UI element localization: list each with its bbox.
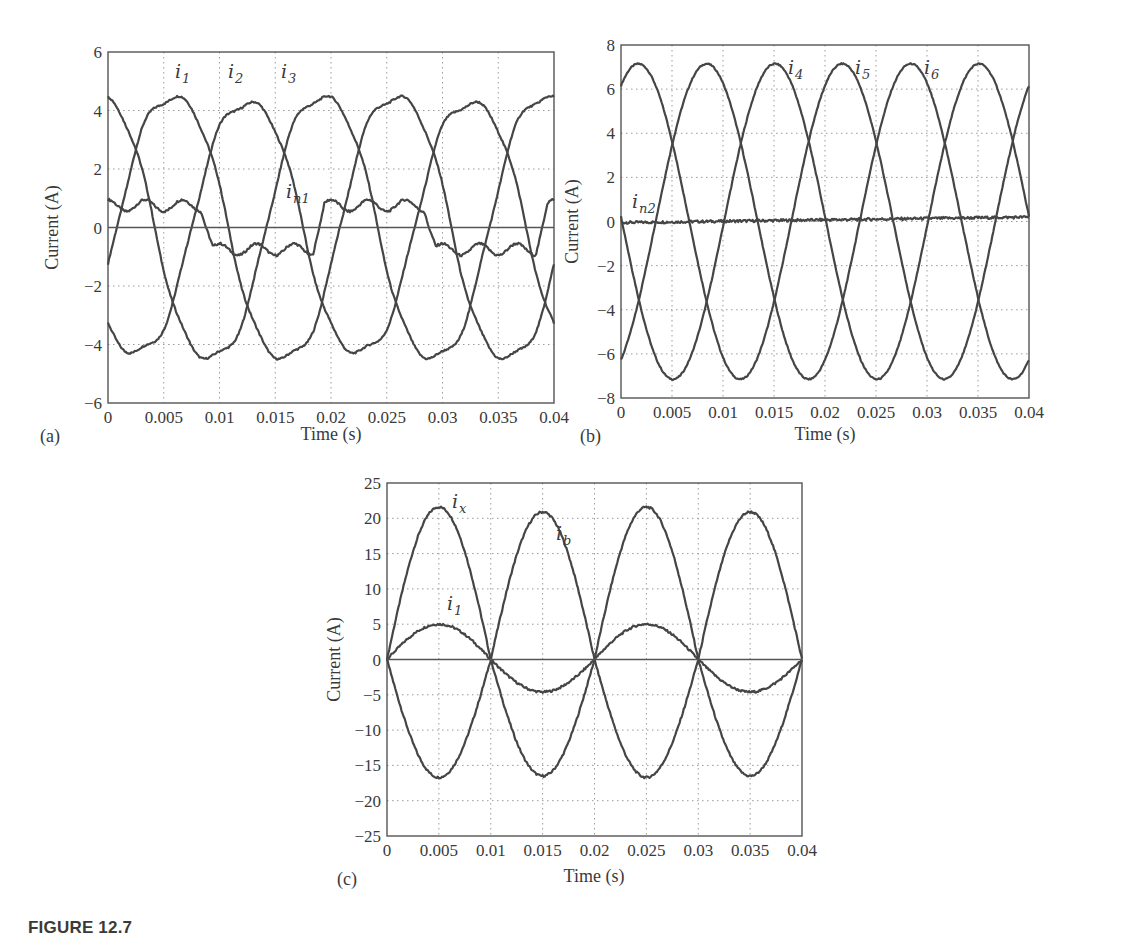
- x-tick-label: 0.025: [627, 841, 665, 860]
- figure-canvas: 00.0050.010.0150.020.0250.030.0350.04642…: [0, 0, 1142, 942]
- chart-panel-2: 00.0050.010.0150.020.0250.030.0350.04252…: [324, 474, 817, 890]
- y-axis-label: Current (A): [562, 179, 583, 263]
- y-tick-label: −20: [354, 792, 381, 811]
- chart-panel-0: 00.0050.010.0150.020.0250.030.0350.04642…: [40, 43, 569, 447]
- series-ix-label: ix: [452, 490, 467, 516]
- y-tick-label: 8: [607, 36, 616, 55]
- x-axis-label: Time (s): [795, 424, 856, 445]
- y-tick-label: −4: [84, 336, 103, 355]
- x-tick-label: 0.04: [539, 408, 569, 427]
- y-axis-label: Current (A): [324, 617, 345, 701]
- y-tick-label: 0: [607, 213, 616, 232]
- x-tick-label: 0.015: [755, 403, 793, 422]
- y-tick-label: 0: [94, 219, 103, 238]
- x-axis-label: Time (s): [301, 424, 362, 445]
- x-tick-label: 0.005: [145, 408, 183, 427]
- y-tick-label: 2: [94, 160, 103, 179]
- y-tick-label: 2: [607, 168, 616, 187]
- series-i2-label: i2: [228, 60, 243, 86]
- panel-label: (c): [337, 869, 357, 890]
- series-ib-label: ib: [556, 522, 571, 548]
- x-tick-label: 0.04: [1014, 403, 1044, 422]
- x-tick-label: 0.01: [476, 841, 506, 860]
- x-tick-label: 0: [383, 841, 392, 860]
- x-tick-label: 0.025: [368, 408, 406, 427]
- panel-label: (b): [580, 426, 601, 447]
- y-tick-label: −4: [597, 301, 616, 320]
- x-tick-label: 0: [617, 403, 626, 422]
- x-tick-label: 0.005: [420, 841, 458, 860]
- x-tick-label: 0.02: [580, 841, 610, 860]
- y-tick-label: 20: [364, 509, 381, 528]
- figure-caption: FIGURE 12.7: [28, 918, 132, 938]
- x-tick-label: 0.025: [857, 403, 895, 422]
- y-tick-label: 6: [607, 80, 616, 99]
- series-i1-label: i1: [175, 60, 190, 86]
- x-tick-label: 0.01: [205, 408, 235, 427]
- y-tick-label: 4: [607, 124, 616, 143]
- series-i6-label: i6: [924, 56, 939, 82]
- y-axis-label: Current (A): [42, 185, 63, 269]
- x-tick-label: 0.03: [912, 403, 942, 422]
- y-tick-label: 10: [364, 580, 381, 599]
- x-tick-label: 0.02: [810, 403, 840, 422]
- y-tick-label: −6: [597, 345, 615, 364]
- x-tick-label: 0.005: [653, 403, 691, 422]
- series-in1-label: in1: [286, 180, 310, 206]
- x-tick-label: 0.035: [479, 408, 517, 427]
- x-tick-label: 0: [104, 408, 113, 427]
- x-tick-label: 0.035: [959, 403, 997, 422]
- x-tick-label: 0.035: [731, 841, 769, 860]
- series-ix-line: [387, 506, 802, 777]
- y-tick-label: 5: [373, 615, 382, 634]
- x-axis-label: Time (s): [564, 866, 625, 887]
- y-tick-label: 4: [94, 102, 103, 121]
- y-tick-label: −10: [354, 721, 381, 740]
- x-tick-label: 0.015: [524, 841, 562, 860]
- panel-label: (a): [40, 426, 60, 447]
- y-tick-label: 25: [364, 474, 381, 493]
- series-i3-label: i3: [281, 60, 296, 86]
- y-tick-label: −2: [84, 277, 102, 296]
- y-tick-label: 6: [94, 43, 103, 62]
- y-tick-label: −5: [363, 686, 381, 705]
- series-i4-label: i4: [788, 56, 803, 82]
- y-tick-label: 0: [373, 651, 382, 670]
- x-tick-label: 0.01: [708, 403, 738, 422]
- chart-panel-1: 00.0050.010.0150.020.0250.030.0350.04864…: [562, 36, 1044, 447]
- y-tick-label: −25: [354, 827, 381, 846]
- series-i1-label: i1: [447, 592, 462, 618]
- y-tick-label: 15: [364, 545, 381, 564]
- series-in2-label: in2: [632, 190, 656, 216]
- x-tick-label: 0.03: [428, 408, 458, 427]
- x-tick-label: 0.04: [787, 841, 817, 860]
- x-tick-label: 0.015: [256, 408, 294, 427]
- y-tick-label: −8: [597, 389, 615, 408]
- y-tick-label: −2: [597, 257, 615, 276]
- x-tick-label: 0.03: [683, 841, 713, 860]
- y-tick-label: −6: [84, 394, 102, 413]
- y-tick-label: −15: [354, 756, 381, 775]
